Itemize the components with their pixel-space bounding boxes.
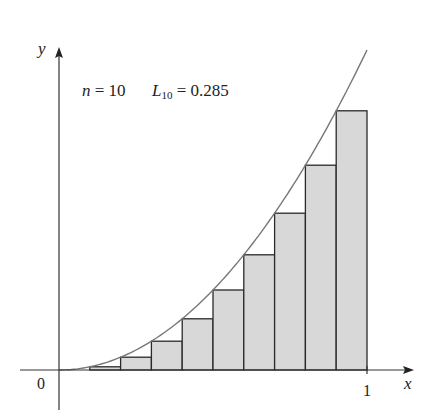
riemann-sum-chart: y x 0 1 n = 10 L10 = 0.285: [0, 0, 423, 415]
rectangle-bar: [305, 165, 336, 370]
rectangle-bar: [151, 341, 182, 370]
annotation-n: n = 10: [82, 81, 126, 100]
rectangle-bar: [336, 111, 367, 370]
left-endpoint-rectangles: [90, 111, 367, 370]
rectangle-bar: [213, 290, 244, 370]
annotation-left-sum: L10 = 0.285: [151, 81, 229, 101]
x-tick-label-0: 0: [37, 375, 45, 392]
y-axis-label: y: [36, 39, 46, 58]
rectangle-bar: [275, 213, 306, 370]
x-axis-label: x: [403, 374, 412, 393]
x-tick-label-1: 1: [363, 382, 371, 399]
rectangle-bar: [182, 319, 213, 370]
rectangle-bar: [244, 255, 275, 370]
rectangle-bar: [121, 357, 152, 370]
